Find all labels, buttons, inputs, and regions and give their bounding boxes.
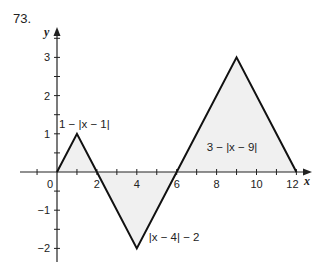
chart: 24681012−2−11230xy1 − |x − 1||x − 4| − 2…: [0, 0, 325, 277]
y-tick-label: 1: [44, 128, 50, 140]
x-tick-label: 4: [134, 178, 140, 190]
y-axis-arrow-icon: [54, 27, 61, 36]
x-tick-label: 8: [214, 178, 220, 190]
function-label: 3 − |x − 9|: [207, 141, 258, 153]
x-axis-label: x: [303, 174, 310, 188]
x-tick-label: 10: [250, 178, 262, 190]
origin-label: 0: [47, 178, 53, 190]
function-label: |x − 4| − 2: [149, 231, 200, 243]
shaded-regions: [57, 57, 296, 248]
y-tick-label: −1: [37, 204, 50, 216]
function-label: 1 − |x − 1|: [59, 118, 110, 130]
shaded-region: [177, 57, 297, 172]
x-tick-label: 6: [174, 178, 180, 190]
x-tick-label: 12: [286, 178, 298, 190]
x-tick-label: 2: [94, 178, 100, 190]
shaded-region: [57, 134, 97, 172]
y-tick-label: 2: [44, 90, 50, 102]
y-tick-label: −2: [37, 242, 50, 254]
y-axis-label: y: [42, 25, 50, 39]
y-tick-label: 3: [44, 51, 50, 63]
